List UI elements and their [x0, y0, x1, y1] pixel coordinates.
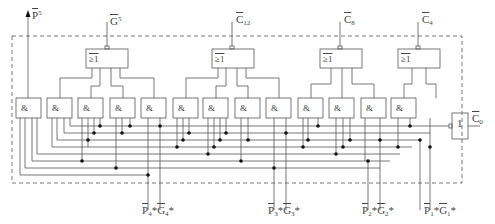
nor-symbol: ≥1 [401, 54, 410, 65]
and-symbol: & [240, 103, 247, 114]
and-symbol: & [146, 103, 153, 114]
and-symbol: & [366, 103, 373, 114]
label-c12: C12 [236, 14, 250, 29]
nor-symbol: ≥1 [89, 54, 98, 65]
junction-dots [80, 124, 432, 177]
label-c8: C8 [344, 14, 355, 29]
label-p4-g4: P4*G4* [142, 205, 174, 220]
and-symbol: & [271, 103, 278, 114]
and-symbol: & [334, 103, 341, 114]
label-p2-g2: P2*G2* [362, 205, 394, 220]
inverter-symbol: 1 [457, 118, 463, 129]
label-c0: C0 [472, 113, 483, 128]
label-p5: P5 [32, 8, 42, 21]
and-symbol: & [303, 103, 310, 114]
carry-lookahead-diagram [0, 0, 495, 224]
label-g5: G5 [110, 14, 121, 27]
label-p1-g1: P1*G1* [424, 205, 456, 220]
and-symbol: & [21, 103, 28, 114]
and-symbol: & [208, 103, 215, 114]
and-symbol: & [178, 103, 185, 114]
nor-symbol: ≥1 [323, 54, 332, 65]
and-symbol: & [115, 103, 122, 114]
and-symbol: & [83, 103, 90, 114]
label-p3-g3: P3*G3* [268, 205, 300, 220]
and-symbol: & [52, 103, 59, 114]
nor-symbol: ≥1 [215, 54, 224, 65]
and-gates [16, 98, 416, 118]
and-symbol: & [396, 103, 403, 114]
label-c4: C4 [422, 14, 433, 29]
